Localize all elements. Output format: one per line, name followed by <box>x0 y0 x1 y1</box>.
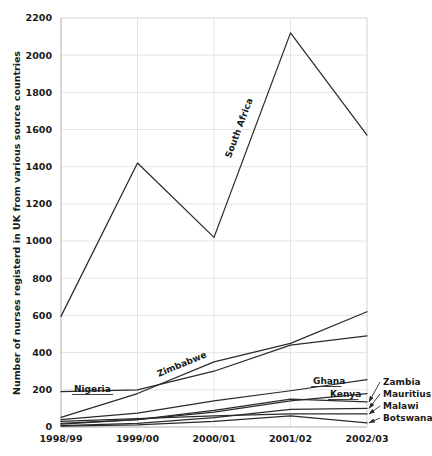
series-label-zambia: Zambia <box>383 377 421 387</box>
series-label-ghana: Ghana <box>313 376 345 386</box>
series-label-kenya: Kenya <box>330 389 361 399</box>
y-tick-label: 800 <box>32 273 52 284</box>
y-tick-label: 200 <box>32 384 52 395</box>
y-tick-label: 400 <box>32 347 52 358</box>
series-callouts: ZambiaMauritiusMalawiBotswana <box>369 377 432 423</box>
x-tick-label: 1999/00 <box>116 433 160 444</box>
series-label-nigeria: Nigeria <box>74 384 111 394</box>
svg-text:Nigeria: Nigeria <box>74 384 111 394</box>
series-label-south-africa: South Africa <box>223 97 254 159</box>
series-label-botswana: Botswana <box>383 413 432 423</box>
callout-leader-mauritius <box>369 394 380 408</box>
x-tick-label: 2001/02 <box>269 433 312 444</box>
y-tick-label: 1200 <box>26 198 53 209</box>
chart-canvas: 0200400600800100012001400160018002000220… <box>0 0 432 456</box>
y-tick-label: 0 <box>45 421 52 432</box>
callout-leader-botswana <box>369 418 380 423</box>
x-tick-label: 2002/03 <box>345 433 388 444</box>
y-tick-label: 1000 <box>26 235 53 246</box>
callout-leader-zambia <box>369 382 380 402</box>
y-axis-title: Number of nurses registerd in UK from va… <box>11 51 22 395</box>
y-tick-label: 600 <box>32 310 52 321</box>
line-chart: 0200400600800100012001400160018002000220… <box>0 0 432 456</box>
y-tick-label: 1400 <box>26 161 53 172</box>
series-label-malawi: Malawi <box>383 401 419 411</box>
svg-text:South Africa: South Africa <box>223 97 254 159</box>
series-label-mauritius: Mauritius <box>383 389 431 399</box>
y-tick-label: 2000 <box>26 50 53 61</box>
series-inline-labels: South AfricaZimbabweNigeriaGhanaKenya <box>72 97 361 400</box>
y-tick-label: 2200 <box>26 12 53 23</box>
x-tick-label: 1998/99 <box>39 433 82 444</box>
callout-leader-malawi <box>369 406 380 414</box>
svg-text:Ghana: Ghana <box>313 376 345 386</box>
y-tick-label: 1600 <box>26 124 53 135</box>
svg-text:Kenya: Kenya <box>330 389 361 399</box>
x-tick-label: 2000/01 <box>192 433 235 444</box>
y-axis-tick-labels: 0200400600800100012001400160018002000220… <box>26 12 53 432</box>
x-axis-tick-labels: 1998/991999/002000/012001/022002/03 <box>39 433 388 444</box>
y-tick-label: 1800 <box>26 87 53 98</box>
